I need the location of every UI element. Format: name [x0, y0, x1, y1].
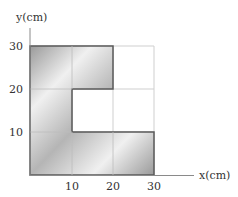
- diagram-canvas: y(cm) x(cm) 30 20 10 10 20 30: [0, 0, 238, 197]
- x-tick-10: 10: [65, 180, 79, 193]
- y-tick-10: 10: [9, 126, 23, 139]
- x-tick-30: 30: [147, 180, 161, 193]
- y-tick-20: 20: [9, 83, 23, 96]
- y-tick-30: 30: [9, 40, 23, 53]
- x-tick-20: 20: [106, 180, 120, 193]
- y-axis-label: y(cm): [15, 11, 47, 24]
- plate-shape: [30, 46, 154, 175]
- x-axis-label: x(cm): [199, 169, 230, 182]
